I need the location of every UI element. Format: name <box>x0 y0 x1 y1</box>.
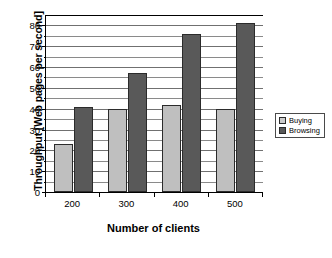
y-axis-tick-label: 80 <box>29 20 40 31</box>
chart-legend: BuyingBrowsing <box>275 113 325 138</box>
x-axis-tick-label: 300 <box>99 198 153 209</box>
legend-swatch-icon <box>279 117 286 124</box>
legend-swatch-icon <box>279 127 286 134</box>
bar-browsing <box>74 107 93 192</box>
bar-buying <box>216 109 235 192</box>
bar-buying <box>108 109 127 192</box>
x-axis-tick-label: 400 <box>154 198 208 209</box>
bar-buying <box>54 144 73 192</box>
legend-item: Browsing <box>279 127 320 135</box>
x-axis-tick-labels: 200300400500 <box>45 198 262 209</box>
plot-area: 01020304050607080 <box>45 15 263 193</box>
x-axis-tick <box>262 192 263 197</box>
bar-browsing <box>128 73 147 192</box>
y-axis-tick-label: 60 <box>29 62 40 73</box>
x-axis-tick-label: 200 <box>45 198 99 209</box>
bar-groups <box>46 15 263 192</box>
y-axis-tick-label: 20 <box>29 145 40 156</box>
bar-group <box>100 15 154 192</box>
y-axis-title: Throughput [Web pages per second] <box>32 11 44 191</box>
bar-group <box>46 15 100 192</box>
y-axis-tick-label: 0 <box>35 187 40 198</box>
bar-browsing <box>182 34 201 192</box>
x-axis-tick <box>154 192 155 197</box>
bar-buying <box>162 105 181 192</box>
x-axis-title: Number of clients <box>45 222 262 234</box>
x-axis-tick <box>208 192 209 197</box>
bar-chart: Throughput [Web pages per second] 010203… <box>0 0 332 258</box>
x-axis-tick-label: 500 <box>208 198 262 209</box>
y-axis-tick-label: 10 <box>29 166 40 177</box>
legend-item: Buying <box>279 117 320 125</box>
y-axis-tick-label: 40 <box>29 103 40 114</box>
y-axis-tick-label: 30 <box>29 124 40 135</box>
bar-browsing <box>236 23 255 192</box>
legend-label: Browsing <box>289 127 320 135</box>
x-axis-tick <box>99 192 100 197</box>
bar-group <box>155 15 209 192</box>
legend-label: Buying <box>289 117 312 125</box>
bar-group <box>209 15 263 192</box>
y-axis-tick-label: 70 <box>29 41 40 52</box>
x-axis-tick <box>45 192 46 197</box>
y-axis-tick-label: 50 <box>29 82 40 93</box>
